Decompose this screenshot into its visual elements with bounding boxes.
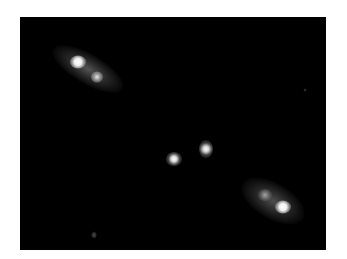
central-source-left xyxy=(166,152,182,166)
astronomical-image xyxy=(20,17,326,250)
upper-left-lobe-halo xyxy=(46,36,130,102)
faint-speck xyxy=(92,232,97,239)
upper-left-lobe-core xyxy=(70,56,86,69)
lower-right-lobe-core xyxy=(275,201,291,214)
central-source-right xyxy=(199,140,213,158)
lower-right-lobe-halo xyxy=(234,168,313,234)
image-description: Grayscale astronomical image on black ba… xyxy=(0,0,1,1)
faint-speck xyxy=(304,89,307,92)
upper-left-lobe-knot xyxy=(91,72,103,83)
lower-right-lobe-knot xyxy=(258,189,272,201)
